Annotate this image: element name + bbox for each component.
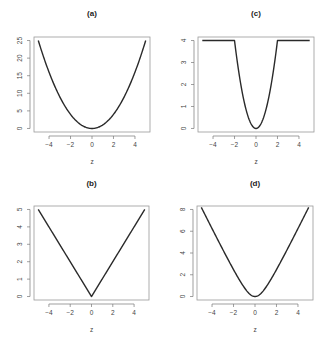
y-tick-label: 4 — [179, 251, 186, 255]
x-axis-label: z — [90, 158, 93, 165]
x-axis-label: z — [253, 326, 256, 333]
x-tick-label: 2 — [276, 141, 280, 148]
x-axis-label: z — [254, 158, 257, 165]
y-tick-label: 2 — [180, 82, 187, 86]
x-tick-label: 0 — [90, 309, 94, 316]
x-tick-label: −2 — [231, 141, 239, 148]
y-axis: 012345 — [16, 207, 30, 298]
x-tick-label: 2 — [275, 309, 279, 316]
plot-frame — [197, 206, 313, 300]
y-tick-label: 0 — [16, 126, 23, 130]
y-tick-label: 1 — [16, 277, 23, 281]
y-tick-label: 1 — [180, 104, 187, 108]
x-axis: −4−2024 — [208, 304, 300, 316]
y-tick-label: 3 — [16, 242, 23, 246]
x-tick-label: 4 — [132, 309, 136, 316]
y-tick-label: 5 — [16, 207, 23, 211]
y-tick-label: 4 — [180, 38, 187, 42]
x-axis-label: z — [90, 326, 93, 333]
y-tick-label: 20 — [16, 54, 23, 62]
y-tick-label: 2 — [179, 273, 186, 277]
x-axis: −4−2024 — [209, 136, 301, 148]
chart-title: (b) — [86, 179, 97, 188]
plot-b: (b)−4−2024012345z — [0, 170, 165, 342]
chart-title: (c) — [251, 9, 261, 18]
y-tick-label: 3 — [180, 60, 187, 64]
x-tick-label: 0 — [253, 309, 257, 316]
x-axis: −4−2024 — [45, 136, 137, 148]
y-tick-label: 0 — [179, 294, 186, 298]
data-curve — [201, 207, 308, 296]
x-tick-label: −4 — [45, 309, 53, 316]
y-axis: 0510152025 — [16, 37, 30, 131]
plot-a: (a)−4−20240510152025z — [0, 0, 165, 172]
data-curve — [38, 41, 145, 129]
plot-d: (d)−4−202402468z — [165, 170, 330, 342]
plot-c: (c)−4−202401234z — [165, 0, 330, 172]
plot-frame — [198, 37, 314, 132]
y-tick-label: 0 — [180, 126, 187, 130]
x-axis: −4−2024 — [45, 304, 136, 316]
chart-title: (a) — [87, 9, 97, 18]
panel-a: (a)−4−20240510152025z — [0, 0, 165, 172]
x-tick-label: −4 — [208, 309, 216, 316]
x-tick-label: −2 — [66, 309, 74, 316]
y-tick-label: 10 — [16, 89, 23, 97]
x-tick-label: 0 — [254, 141, 258, 148]
x-tick-label: 4 — [297, 141, 301, 148]
x-tick-label: −2 — [230, 309, 238, 316]
x-tick-label: 0 — [90, 141, 94, 148]
data-curve — [38, 209, 144, 296]
y-tick-label: 6 — [179, 229, 186, 233]
x-tick-label: 4 — [133, 141, 137, 148]
y-tick-label: 2 — [16, 260, 23, 264]
x-tick-label: 2 — [112, 141, 116, 148]
plot-frame — [34, 206, 149, 300]
x-tick-label: 4 — [296, 309, 300, 316]
y-axis: 01234 — [180, 38, 194, 130]
x-tick-label: −4 — [209, 141, 217, 148]
x-tick-label: −4 — [45, 141, 53, 148]
panel-d: (d)−4−202402468z — [165, 170, 330, 342]
y-tick-label: 25 — [16, 37, 23, 45]
y-tick-label: 0 — [16, 294, 23, 298]
plot-frame — [34, 37, 150, 132]
y-tick-label: 8 — [179, 207, 186, 211]
panel-c: (c)−4−202401234z — [165, 0, 330, 172]
x-tick-label: −2 — [67, 141, 75, 148]
y-tick-label: 5 — [16, 109, 23, 113]
y-axis: 02468 — [179, 207, 193, 298]
panel-b: (b)−4−2024012345z — [0, 170, 165, 342]
chart-title: (d) — [250, 179, 261, 188]
y-tick-label: 15 — [16, 72, 23, 80]
data-curve — [202, 41, 309, 129]
x-tick-label: 2 — [111, 309, 115, 316]
y-tick-label: 4 — [16, 225, 23, 229]
